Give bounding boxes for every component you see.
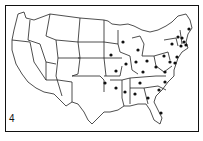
us-map [0, 0, 203, 141]
panel-label: 4 [9, 113, 15, 124]
us-outline [12, 12, 192, 124]
